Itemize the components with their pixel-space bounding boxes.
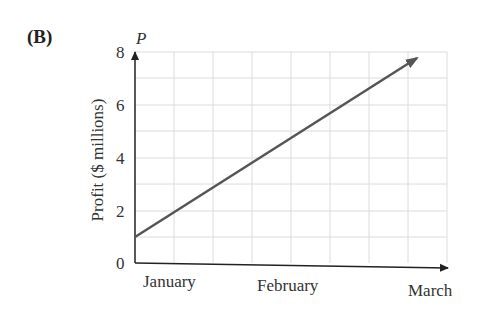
x-axis bbox=[135, 263, 448, 268]
y-tick-2: 2 bbox=[116, 202, 125, 221]
gridlines bbox=[135, 52, 447, 263]
profit-line bbox=[135, 58, 417, 237]
y-tick-6: 6 bbox=[116, 96, 125, 115]
y-tick-0: 0 bbox=[116, 254, 125, 273]
x-label-february: February bbox=[257, 276, 319, 295]
y-tick-4: 4 bbox=[116, 149, 125, 168]
profit-chart: 8 6 4 2 0 P Profit ($ millions) January … bbox=[0, 0, 486, 309]
y-tick-8: 8 bbox=[116, 43, 125, 62]
y-axis-title: Profit ($ millions) bbox=[88, 99, 107, 222]
x-label-march: March bbox=[408, 281, 453, 300]
x-label-january: January bbox=[143, 272, 196, 291]
y-axis-symbol: P bbox=[135, 29, 146, 48]
